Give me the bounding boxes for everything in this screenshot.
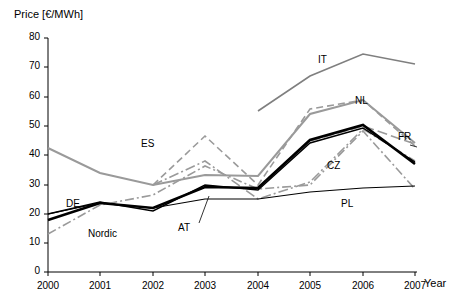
series-line-AT xyxy=(48,128,415,214)
series-line-PL xyxy=(48,186,415,214)
series-line-IT xyxy=(258,54,415,111)
x-tick-2004: 2004 xyxy=(242,280,274,291)
x-tick-2001: 2001 xyxy=(84,280,116,291)
y-tick-10: 10 xyxy=(18,236,40,247)
axes xyxy=(44,38,417,276)
x-tick-2003: 2003 xyxy=(189,280,221,291)
y-tick-80: 80 xyxy=(18,31,40,42)
y-tick-20: 20 xyxy=(18,207,40,218)
series-label-DE: DE xyxy=(66,198,80,209)
series-line-DE xyxy=(48,125,415,220)
y-tick-50: 50 xyxy=(18,119,40,130)
series-line-NL xyxy=(48,100,415,185)
x-tick-2007: 2007 xyxy=(399,280,431,291)
y-axis-title: Price [€/MWh] xyxy=(14,8,83,20)
y-tick-60: 60 xyxy=(18,90,40,101)
chart-container: Price [€/MWh] Year 0 10 20 30 40 50 60 7… xyxy=(0,0,463,306)
chart-canvas xyxy=(0,0,463,306)
y-tick-40: 40 xyxy=(18,148,40,159)
series-label-Nordic: Nordic xyxy=(88,228,117,239)
series-label-NL: NL xyxy=(355,95,368,106)
series-label-PL: PL xyxy=(341,198,353,209)
series-label-FR: FR xyxy=(398,131,411,142)
y-tick-30: 30 xyxy=(18,178,40,189)
series-label-AT: AT xyxy=(178,222,190,233)
x-tick-2005: 2005 xyxy=(294,280,326,291)
series-line-Nordic xyxy=(48,131,415,234)
x-tick-2000: 2000 xyxy=(32,280,64,291)
series-label-IT: IT xyxy=(318,54,327,65)
y-tick-0: 0 xyxy=(18,265,40,276)
series-label-ES: ES xyxy=(141,138,154,149)
y-tick-70: 70 xyxy=(18,60,40,71)
x-tick-2002: 2002 xyxy=(137,280,169,291)
series-label-CZ: CZ xyxy=(327,160,340,171)
x-tick-2006: 2006 xyxy=(347,280,379,291)
